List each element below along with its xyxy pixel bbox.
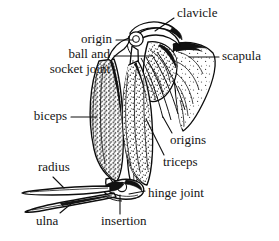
label-origin: origin: [81, 31, 113, 46]
label-radius: radius: [38, 159, 70, 174]
radius-bone: [22, 186, 110, 195]
anatomy-illustration: clavicle origin ball and socket joint sc…: [0, 0, 279, 241]
label-clavicle: clavicle: [177, 5, 218, 20]
label-biceps: biceps: [34, 108, 67, 123]
label-triceps: triceps: [163, 154, 198, 169]
anatomy-figure: clavicle origin ball and socket joint sc…: [0, 0, 279, 241]
label-ball-and-socket-joint-line1: ball and: [68, 46, 110, 61]
label-ulna: ulna: [36, 213, 59, 228]
ulna-bone: [25, 193, 116, 212]
label-ball-and-socket-joint-line2: socket joint: [50, 61, 111, 76]
label-scapula: scapula: [222, 48, 261, 63]
label-origins: origins: [170, 132, 206, 147]
label-insertion: insertion: [101, 213, 147, 228]
leader-radius: [53, 177, 64, 188]
label-hinge-joint: hinge joint: [148, 185, 204, 200]
